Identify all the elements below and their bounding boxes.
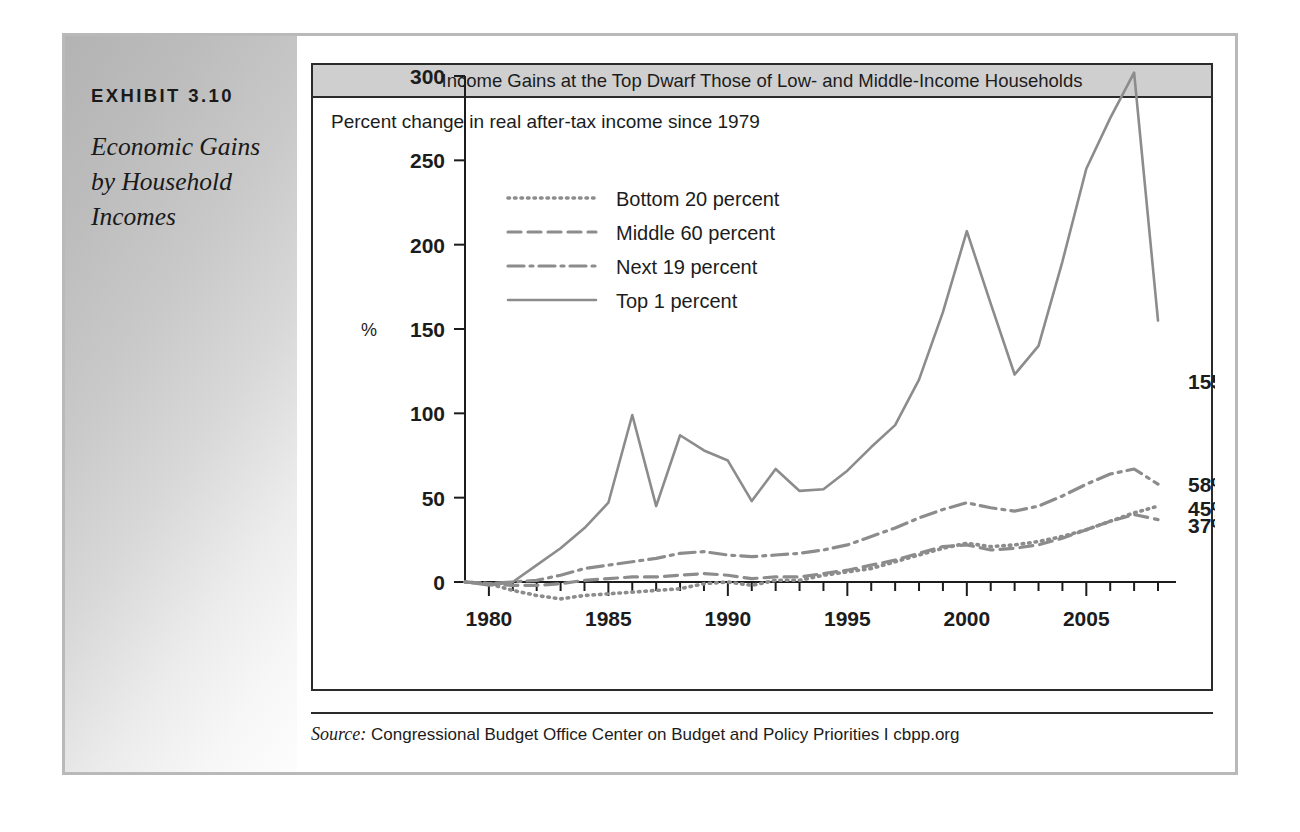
exhibit-number-label: EXHIBIT 3.10 [91,85,234,107]
series-line-next-19-percent [465,469,1158,584]
chart-series-group [465,73,1158,599]
y-axis-tick-label: 250 [410,149,445,172]
chart-legend: Bottom 20 percentMiddle 60 percentNext 1… [508,188,780,312]
y-axis-tick-label: 0 [433,571,445,594]
legend-label-next-19-percent: Next 19 percent [616,256,758,278]
y-axis-tick-label: 300 [410,65,445,88]
x-axis-tick-label: 2000 [943,607,990,630]
exhibit-caption-panel: EXHIBIT 3.10 Economic Gains by Household… [65,36,297,772]
chart-axes: 050100150200250300%198019851990199520002… [361,65,1176,630]
legend-label-bottom-20-percent: Bottom 20 percent [616,188,780,210]
y-axis-tick-label: 150 [410,318,445,341]
figure-frame: EXHIBIT 3.10 Economic Gains by Household… [62,33,1238,775]
y-axis-unit-label: % [361,320,377,340]
exhibit-title: Economic Gains by Household Incomes [91,129,276,234]
x-axis-tick-label: 1990 [705,607,752,630]
plot-area: 050100150200250300%198019851990199520002… [313,65,1215,693]
end-label-next-19-percent: 58% [1188,473,1215,496]
x-axis-tick-label: 1980 [466,607,513,630]
series-line-top-1-percent [465,73,1158,586]
source-label: Source: [311,724,366,744]
y-axis-tick-label: 50 [422,487,445,510]
legend-label-top-1-percent: Top 1 percent [616,290,738,312]
exhibit-figure: EXHIBIT 3.10 Economic Gains by Household… [0,0,1300,832]
source-line: Source: Congressional Budget Office Cent… [311,724,959,745]
x-axis-tick-label: 1985 [585,607,632,630]
source-text: Congressional Budget Office Center on Bu… [371,725,959,744]
series-line-middle-60-percent [465,515,1158,586]
y-axis-tick-label: 200 [410,234,445,257]
end-label-top-1-percent: 155% [1188,370,1215,393]
legend-label-middle-60-percent: Middle 60 percent [616,222,775,244]
chart-card: Income Gains at the Top Dwarf Those of L… [311,63,1213,691]
source-divider [311,712,1213,714]
chart-end-labels: 155%58%45%37% [1188,370,1215,537]
line-chart-svg: 050100150200250300%198019851990199520002… [313,65,1215,693]
end-label-middle-60-percent: 37% [1188,514,1215,537]
x-axis-tick-label: 1995 [824,607,871,630]
y-axis-tick-label: 100 [410,402,445,425]
x-axis-tick-label: 2005 [1063,607,1110,630]
